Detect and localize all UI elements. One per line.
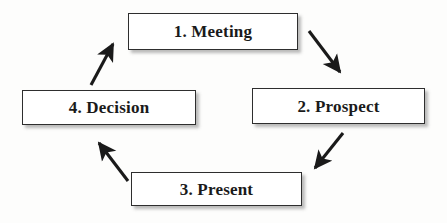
node-prospect[interactable]: 2. Prospect xyxy=(252,88,425,124)
arrow-decision-to-meeting xyxy=(91,44,113,85)
arrow-prospect-to-present xyxy=(315,133,343,168)
node-present-label: 3. Present xyxy=(180,181,253,198)
node-meeting[interactable]: 1. Meeting xyxy=(128,13,298,50)
node-present[interactable]: 3. Present xyxy=(131,172,302,206)
node-meeting-label: 1. Meeting xyxy=(174,23,252,40)
node-decision-label: 4. Decision xyxy=(69,99,150,116)
arrow-meeting-to-prospect xyxy=(309,31,340,72)
node-decision[interactable]: 4. Decision xyxy=(22,90,196,125)
cycle-diagram: 1. Meeting 2. Prospect 3. Present 4. Dec… xyxy=(0,0,447,223)
arrow-present-to-decision xyxy=(99,143,128,181)
node-prospect-label: 2. Prospect xyxy=(297,98,379,115)
